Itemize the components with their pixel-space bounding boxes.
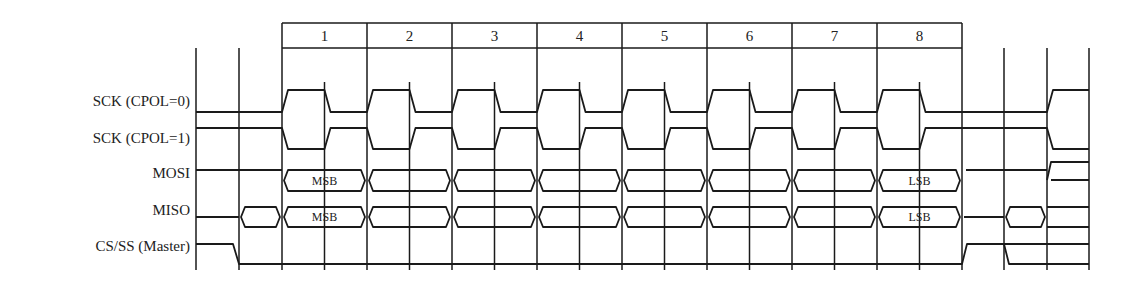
sck-cpol1-wave [196,128,1089,149]
sck-cpol0-wave [196,90,1089,112]
bus-labels: MSBLSBMSBLSB [312,174,931,225]
grid-lines [196,48,1089,270]
miso-lsb-label: LSB [908,210,930,224]
mosi-msb-label: MSB [312,174,337,188]
cs-ss-wave [196,244,1089,264]
bit-number-boxes [282,23,962,48]
miso-msb-label: MSB [312,210,337,224]
bit-number: 2 [406,28,414,44]
bit-number: 7 [831,28,839,44]
bit-number: 1 [321,28,329,44]
bit-number: 8 [916,28,924,44]
bit-number: 4 [576,28,584,44]
bit-number: 5 [661,28,669,44]
bit-number: 6 [746,28,754,44]
timing-diagram: 12345678 MSBLSBMSBLSB [0,0,1124,285]
mosi-lsb-label: LSB [908,174,930,188]
bit-number: 3 [491,28,499,44]
